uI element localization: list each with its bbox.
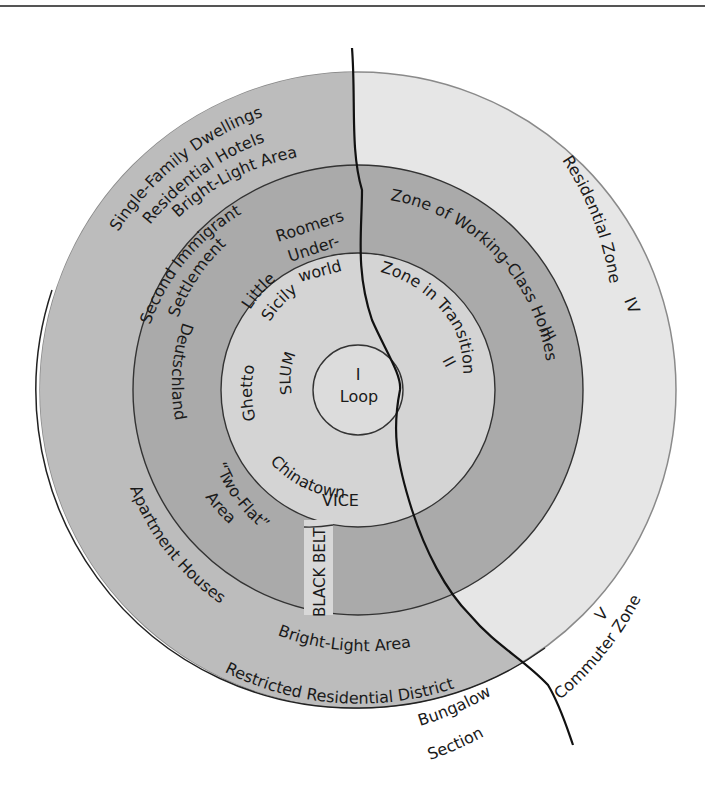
label-loop: Loop [340,387,378,406]
label-vice: VICE [322,491,359,510]
label-section: Section [425,723,486,764]
label-black-belt: BLACK BELT [311,527,329,617]
label-zone-v-numeral: V [591,604,612,625]
concentric-zone-diagram: Single-Family Dwellings Residential Hote… [0,0,705,788]
label-zone-i-numeral: I [356,365,361,384]
